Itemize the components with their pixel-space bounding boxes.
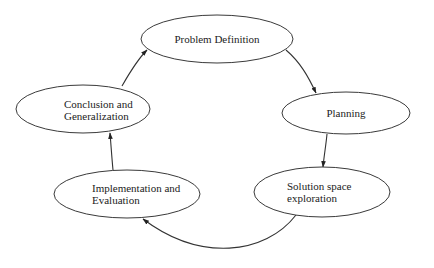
label-line: Conclusion and [64,98,133,110]
label-problem-definition: Problem Definition [167,33,267,45]
label-line: Generalization [64,110,133,122]
label-conclusion-generalization: Conclusion and Generalization [64,98,133,122]
label-line: Solution space [287,180,351,192]
label-line: Planning [311,107,381,119]
label-line: exploration [287,192,351,204]
edge-implementation-to-conclusion [110,133,113,170]
edge-solution-to-implementation [143,215,296,248]
label-line: Implementation and [92,182,180,194]
edge-conclusion-to-problem [122,50,147,86]
label-implementation-evaluation: Implementation and Evaluation [92,182,180,206]
label-solution-space-exploration: Solution space exploration [287,180,351,204]
label-line: Problem Definition [167,33,267,45]
label-planning: Planning [311,107,381,119]
edge-problem-to-planning [286,50,316,93]
edge-planning-to-solution [323,134,327,167]
label-line: Evaluation [92,194,180,206]
